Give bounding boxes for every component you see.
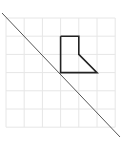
reflection-diagram — [0, 0, 122, 142]
